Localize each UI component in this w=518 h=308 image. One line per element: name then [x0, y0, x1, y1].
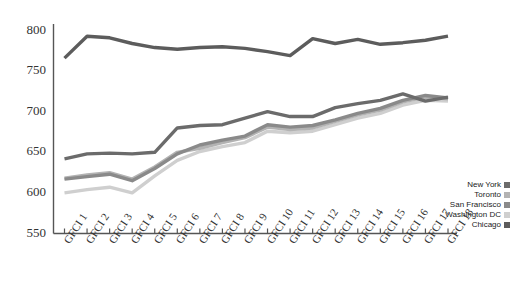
legend-color-swatch: [504, 192, 510, 198]
y-axis-tick-label: 800: [6, 22, 46, 38]
legend-item[interactable]: New York: [406, 180, 510, 190]
chart-legend: New YorkTorontoSan FranciscoWashington D…: [406, 180, 510, 230]
chart-plot-area: [0, 0, 518, 308]
legend-item[interactable]: Washington DC: [406, 210, 510, 220]
axis-lines: [54, 24, 458, 234]
legend-item-label: Washington DC: [445, 210, 501, 220]
y-axis-tick-label: 550: [6, 225, 46, 241]
y-axis-tick-label: 600: [6, 184, 46, 200]
legend-item[interactable]: San Francisco: [406, 200, 510, 210]
y-axis-tick-label: 750: [6, 62, 46, 78]
legend-item-label: New York: [467, 180, 501, 190]
series-line-chicago: [65, 36, 449, 58]
legend-item[interactable]: Chicago: [406, 220, 510, 230]
legend-item-label: San Francisco: [450, 200, 501, 210]
legend-color-swatch: [504, 212, 510, 218]
legend-color-swatch: [504, 182, 510, 188]
series-lines: [65, 36, 449, 193]
y-axis-tick-label: 700: [6, 103, 46, 119]
line-chart: 550600650700750800 GFCI 1GFCI 2GFCI 3GFC…: [0, 0, 518, 308]
legend-item[interactable]: Toronto: [406, 190, 510, 200]
y-axis-tick-label: 650: [6, 143, 46, 159]
legend-color-swatch: [504, 202, 510, 208]
legend-item-label: Chicago: [472, 220, 501, 230]
legend-color-swatch: [504, 222, 510, 228]
legend-item-label: Toronto: [474, 190, 501, 200]
